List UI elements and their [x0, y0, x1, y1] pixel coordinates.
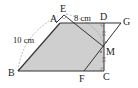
geometry-figure: A E D G M B C F 8 cm 10 cm: [0, 0, 138, 88]
label-a: A: [50, 13, 58, 24]
label-e: E: [60, 3, 66, 14]
label-d: D: [100, 11, 107, 22]
shaded-trapezoid-abcd: [18, 23, 104, 71]
measure-ab: 10 cm: [13, 35, 34, 45]
label-c: C: [103, 71, 110, 82]
label-m: M: [106, 46, 115, 57]
angle-dot-upper: [105, 41, 107, 43]
label-g: G: [123, 16, 130, 27]
label-b: B: [8, 67, 15, 78]
label-f: F: [79, 73, 85, 84]
measure-ed: 8 cm: [74, 13, 91, 23]
angle-dot-lower: [100, 51, 102, 53]
